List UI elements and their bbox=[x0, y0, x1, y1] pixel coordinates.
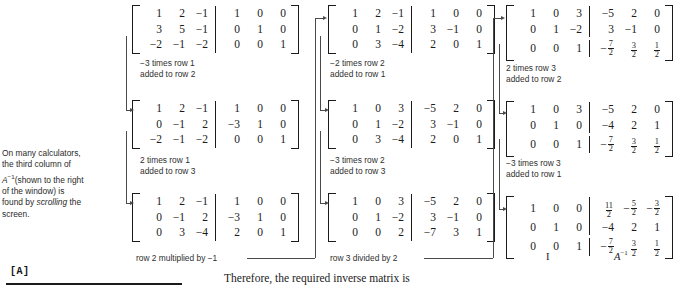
matrix-cell: 1 bbox=[516, 201, 539, 217]
matrix-cell: 0 bbox=[539, 6, 562, 22]
matrix-cell: 1 bbox=[142, 101, 165, 117]
matrix-cell: 1 bbox=[516, 6, 539, 22]
matrix-cell: 1 bbox=[361, 210, 384, 226]
matrix-cell: 0 bbox=[266, 194, 289, 210]
matrix-cell: 0 bbox=[243, 37, 266, 53]
matrix-cell: 0 bbox=[142, 210, 165, 226]
matrix-cell: 1 bbox=[562, 41, 585, 57]
matrix-bracket-left bbox=[328, 5, 336, 54]
matrix-cell: 2 bbox=[439, 194, 462, 210]
matrix-cell: 1 bbox=[142, 6, 165, 22]
note-line-5-pre: found by bbox=[2, 197, 36, 207]
matrix-cell: 1 bbox=[539, 118, 562, 134]
matrix-cell: 12 bbox=[640, 133, 663, 156]
matrix-cell: 0 bbox=[462, 22, 485, 38]
matrix-cell: 2 bbox=[617, 6, 640, 22]
matrix-cell: −1 bbox=[165, 132, 188, 148]
matrix-cell: −4 bbox=[384, 132, 407, 148]
matrix-bracket-left bbox=[328, 100, 336, 149]
matrix-bracket-right bbox=[665, 196, 673, 259]
operation-op1: −3 times row 1 added to row 2 bbox=[140, 58, 195, 79]
matrix-cell: 0 bbox=[562, 220, 585, 236]
matrix-m8: 103−520010−421001−723212 bbox=[506, 100, 673, 158]
matrix-grid: 100112−52−32010−421001−723212 bbox=[514, 196, 665, 259]
matrix-cell: 0 bbox=[462, 210, 485, 226]
margin-note: On many calculators, the third column of… bbox=[2, 148, 124, 220]
matrix-cell: 0 bbox=[539, 239, 562, 255]
matrix-bracket-left bbox=[506, 101, 514, 157]
matrix-m9: 100112−52−32010−421001−723212 bbox=[506, 195, 673, 260]
matrix-cell: 0 bbox=[266, 6, 289, 22]
matrix-cell: 1 bbox=[142, 194, 165, 210]
matrix-cell: 0 bbox=[539, 41, 562, 57]
matrix-cell: −4 bbox=[589, 220, 617, 236]
matrix-cell: 3 bbox=[411, 117, 439, 133]
matrix-m5-container: 103−52001−23−1003−4201 bbox=[328, 99, 495, 153]
connector-3-rule bbox=[247, 258, 315, 259]
matrix-cell: 0 bbox=[516, 220, 539, 236]
connector-6-rule bbox=[424, 258, 493, 259]
matrix-cell: 1 bbox=[243, 210, 266, 226]
matrix-cell: 32 bbox=[617, 37, 640, 60]
matrix-cell: 0 bbox=[462, 6, 485, 22]
connector-5-arrow bbox=[325, 201, 329, 205]
matrix-cell: 32 bbox=[617, 133, 640, 156]
matrix-cell: −1 bbox=[439, 117, 462, 133]
matrix-cell: 1 bbox=[516, 102, 539, 118]
matrix-cell: 5 bbox=[165, 22, 188, 38]
matrix-cell: 0 bbox=[439, 37, 462, 53]
matrix-cell: 0 bbox=[640, 22, 663, 38]
matrix-cell: 0 bbox=[516, 137, 539, 153]
matrix-cell: 0 bbox=[243, 225, 266, 241]
matrix-m6: 103−52001−23−10002−731 bbox=[328, 192, 495, 243]
matrix-cell: −7 bbox=[411, 225, 439, 241]
matrix-cell: 0 bbox=[361, 194, 384, 210]
calculator-screen-rule bbox=[6, 283, 182, 285]
matrix-cell: 1 bbox=[539, 220, 562, 236]
matrix-cell: 2 bbox=[361, 6, 384, 22]
matrix-bracket-right bbox=[291, 5, 299, 54]
matrix-cell: −4 bbox=[589, 118, 617, 134]
matrix-bracket-right bbox=[291, 100, 299, 149]
matrix-cell: 0 bbox=[640, 6, 663, 22]
matrix-cell: 0 bbox=[266, 22, 289, 38]
matrix-cell: 3 bbox=[562, 6, 585, 22]
matrix-cell: 1 bbox=[338, 194, 361, 210]
note-line-1: On many calculators, bbox=[2, 148, 81, 158]
matrix-cell: 0 bbox=[243, 101, 266, 117]
matrix-cell: 0 bbox=[462, 117, 485, 133]
matrix-cell: 2 bbox=[165, 194, 188, 210]
matrix-cell: 1 bbox=[243, 117, 266, 133]
matrix-cell: 1 bbox=[462, 225, 485, 241]
matrix-cell: 0 bbox=[142, 117, 165, 133]
matrix-cell: 3 bbox=[411, 22, 439, 38]
matrix-m5: 103−52001−23−1003−4201 bbox=[328, 99, 495, 150]
matrix-bracket-right bbox=[665, 101, 673, 157]
connector-7-vertical bbox=[499, 44, 500, 113]
connector-3-arrow bbox=[323, 16, 327, 20]
matrix-cell: 12 bbox=[640, 235, 663, 258]
matrix-cell: −4 bbox=[188, 225, 211, 241]
matrix-cell: −72 bbox=[589, 238, 617, 256]
matrix-cell: 1 bbox=[215, 101, 243, 117]
matrix-m3: 12−11000−12−31003−4201 bbox=[132, 192, 299, 243]
operation-op7: 2 times row 3 added to row 2 bbox=[506, 63, 561, 84]
matrix-cell: 3 bbox=[361, 37, 384, 53]
matrix-cell: 1 bbox=[243, 22, 266, 38]
operation-op8: −3 times row 3 added to row 1 bbox=[506, 158, 561, 179]
matrix-cell: 1 bbox=[338, 6, 361, 22]
connector-5-vertical bbox=[320, 131, 321, 203]
matrix-m2-container: 12−11000−12−310−2−1−2001 bbox=[132, 99, 299, 153]
matrix-cell: 1 bbox=[411, 6, 439, 22]
matrix-cell: 2 bbox=[384, 225, 407, 241]
matrix-cell: 2 bbox=[439, 101, 462, 117]
matrix-cell: 0 bbox=[243, 6, 266, 22]
matrix-cell: −4 bbox=[384, 37, 407, 53]
matrix-cell: 0 bbox=[266, 210, 289, 226]
matrix-cell: 1 bbox=[215, 194, 243, 210]
matrix-m4: 12−110001−23−1003−4201 bbox=[328, 4, 495, 55]
note-line-2: the third column of bbox=[2, 159, 71, 169]
matrix-cell: 3 bbox=[411, 210, 439, 226]
matrix-cell: −1 bbox=[617, 22, 640, 38]
matrix-bracket-left bbox=[328, 193, 336, 242]
